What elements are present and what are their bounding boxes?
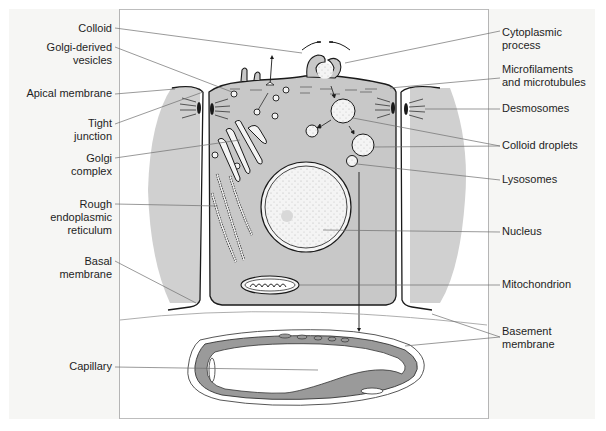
label-golgi-derived-vesicles: Golgi-derivedvesicles xyxy=(47,41,112,67)
label-microfilaments: Microfilamentsand microtubules xyxy=(502,63,586,89)
label-tight-junction: Tightjunction xyxy=(74,117,112,143)
right-neighbor-cell xyxy=(410,88,466,303)
capillary-shape xyxy=(188,330,424,406)
colloid-droplet-small xyxy=(306,125,318,137)
mitochondrion-shape xyxy=(241,276,299,294)
label-colloid: Colloid xyxy=(78,22,112,35)
label-capillary: Capillary xyxy=(69,360,112,373)
label-basement-membrane: Basementmembrane xyxy=(502,325,555,351)
colloid-droplet-mid xyxy=(352,134,374,156)
lysosome xyxy=(347,156,358,167)
label-apical-membrane: Apical membrane xyxy=(26,87,112,100)
label-desmosomes: Desmosomes xyxy=(502,102,569,115)
label-lysosomes: Lysosomes xyxy=(502,173,557,186)
label-mitochondrion: Mitochondrion xyxy=(502,278,571,291)
label-nucleus: Nucleus xyxy=(502,225,542,238)
colloid-droplet-large xyxy=(331,99,355,123)
nucleus-shape xyxy=(261,162,351,252)
label-basal-membrane: Basalmembrane xyxy=(59,255,112,281)
label-colloid-droplets: Colloid droplets xyxy=(502,139,578,152)
label-rough-er: Roughendoplasmicreticulum xyxy=(50,198,112,237)
label-golgi-complex: Golgicomplex xyxy=(71,152,112,178)
label-cytoplasmic-process: Cytoplasmicprocess xyxy=(502,26,562,52)
left-neighbor-cell xyxy=(148,87,200,303)
